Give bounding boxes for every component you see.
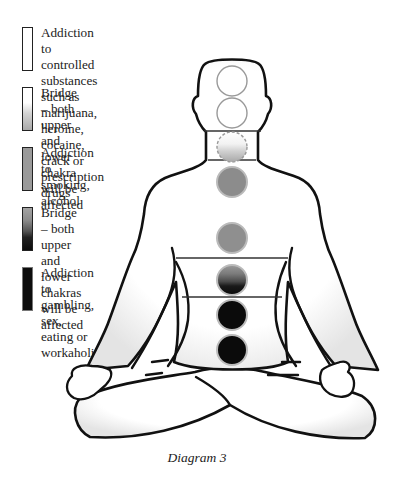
- meditating-figure-illustration: [0, 0, 394, 481]
- chakra-throat-bridge-icon: [217, 132, 247, 162]
- chakra-root-icon: [217, 335, 247, 365]
- chakra-heart-icon: [217, 223, 247, 253]
- chakra-sacral-icon: [217, 300, 247, 330]
- chakra-crown-icon: [217, 66, 247, 96]
- chakra-upper-chest-icon: [217, 167, 247, 197]
- chakra-solar-plexus-bridge-icon: [217, 265, 247, 295]
- right-hand: [320, 362, 354, 397]
- chakra-third-eye-icon: [217, 98, 247, 128]
- diagram-caption: Diagram 3: [0, 450, 394, 466]
